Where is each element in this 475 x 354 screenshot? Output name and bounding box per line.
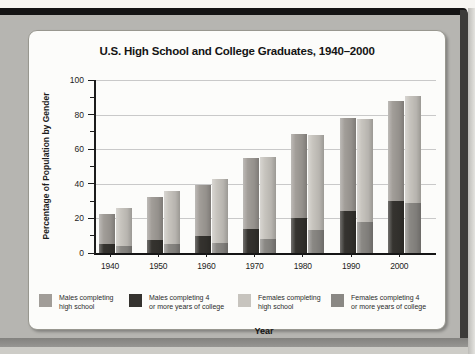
x-tick-label-1990: 1990	[331, 261, 371, 271]
gridline-100	[96, 80, 436, 81]
bar-females-college-1940	[116, 246, 132, 253]
gridline-80	[96, 115, 436, 116]
y-minor-tick-30	[90, 201, 94, 202]
y-minor-tick-50	[90, 166, 94, 167]
page-border-bottom	[0, 338, 468, 347]
x-axis-label: Year	[94, 326, 434, 336]
y-tick-label-0: 0	[56, 248, 84, 258]
bar-males-college-1980	[291, 218, 307, 253]
legend-swatch-females-college	[331, 294, 344, 307]
legend-item-females-college: Females completing 4 or more years of co…	[331, 293, 431, 311]
bar-males-college-1970	[243, 229, 259, 253]
y-tick-label-80: 80	[56, 110, 84, 120]
x-tick-2000	[399, 253, 400, 257]
x-tick-label-1960: 1960	[186, 261, 226, 271]
legend-label-males-college: Males completing 4 or more years of coll…	[149, 293, 229, 311]
page-border-right	[460, 10, 468, 346]
chart-panel: U.S. High School and College Graduates, …	[28, 30, 446, 330]
bar-males-college-1990	[340, 211, 356, 253]
y-axis-label-text: Percentage of Population by Gender	[41, 93, 51, 240]
bar-males-college-1960	[195, 236, 211, 253]
y-tick-label-60: 60	[56, 144, 84, 154]
y-tick-80	[88, 114, 94, 115]
x-tick-1960	[206, 253, 207, 257]
page-border-top	[0, 8, 467, 15]
page-edge-top	[0, 0, 475, 8]
bar-females-college-1970	[260, 239, 276, 253]
x-tick-label-1980: 1980	[283, 261, 323, 271]
bar-females-college-1990	[357, 222, 373, 253]
legend-swatch-males-college	[129, 294, 142, 307]
y-minor-tick-90	[90, 97, 94, 98]
bar-males-college-2000	[388, 201, 404, 253]
legend-item-males-college: Males completing 4 or more years of coll…	[129, 293, 229, 311]
page-edge-right	[468, 8, 475, 354]
bar-females-college-1980	[308, 230, 324, 253]
y-tick-label-20: 20	[56, 213, 84, 223]
bar-males-college-1940	[99, 244, 115, 254]
legend: Males completing high school Males compl…	[29, 293, 445, 323]
y-minor-tick-70	[90, 131, 94, 132]
gridline-60	[96, 149, 436, 150]
x-tick-1950	[158, 253, 159, 257]
x-tick-label-1950: 1950	[138, 261, 178, 271]
y-minor-tick-10	[90, 235, 94, 236]
y-tick-0	[88, 253, 94, 254]
bar-females-college-1950	[164, 244, 180, 253]
x-tick-1970	[254, 253, 255, 257]
scanned-page: U.S. High School and College Graduates, …	[0, 0, 475, 354]
x-tick-label-2000: 2000	[379, 261, 419, 271]
x-tick-label-1940: 1940	[90, 261, 130, 271]
x-tick-1980	[302, 253, 303, 257]
y-tick-40	[88, 183, 94, 184]
page-edge-bottom	[0, 347, 468, 354]
legend-label-males-hs: Males completing high school	[59, 293, 139, 311]
y-tick-label-40: 40	[56, 179, 84, 189]
legend-label-females-hs: Females completing high school	[258, 293, 338, 311]
legend-item-males-hs: Males completing high school	[39, 293, 139, 311]
bar-females-college-1960	[212, 243, 228, 253]
plot-area: 0204060801001940195019601970198019902000	[94, 80, 436, 255]
x-tick-1990	[351, 253, 352, 257]
y-tick-20	[88, 218, 94, 219]
x-tick-1940	[110, 253, 111, 257]
bar-females-college-2000	[405, 203, 421, 253]
y-tick-60	[88, 149, 94, 150]
chart-title: U.S. High School and College Graduates, …	[29, 45, 445, 57]
legend-swatch-males-hs	[39, 294, 52, 307]
legend-label-females-college: Females completing 4 or more years of co…	[351, 293, 431, 311]
x-tick-label-1970: 1970	[235, 261, 275, 271]
legend-item-females-hs: Females completing high school	[238, 293, 338, 311]
bar-males-college-1950	[147, 240, 163, 253]
y-tick-100	[88, 80, 94, 81]
legend-swatch-females-hs	[238, 294, 251, 307]
y-tick-label-100: 100	[56, 75, 84, 85]
